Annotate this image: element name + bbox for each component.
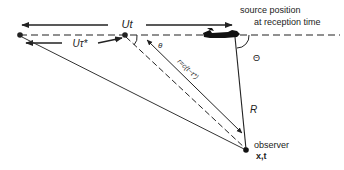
source-position-label-line2: at reception time: [254, 17, 321, 27]
observer-coords-label: x,t: [256, 151, 267, 161]
ut-label: Ut: [122, 18, 134, 30]
propagation-path-dashed: [126, 37, 246, 149]
source-position-label-line1: source position: [240, 5, 301, 15]
origin-to-observer-line: [22, 37, 246, 150]
r-equation-label: r=c(t−τ*): [176, 58, 200, 82]
emission-point: [122, 32, 128, 38]
theta-large-label: Θ: [253, 53, 260, 63]
theta-small-label: θ: [158, 41, 163, 50]
u-tau-star-label: Uτ*: [73, 38, 89, 49]
aircraft-icon: [203, 28, 240, 38]
r-distance-arrow: [147, 40, 242, 133]
u-tau-arrow-right: [98, 38, 122, 43]
moving-source-geometry-diagram: Ut Uτ* θ r=c(t−τ*) Θ R observer x,t sour…: [0, 0, 344, 170]
observer-label: observer: [254, 140, 289, 150]
R-label: R: [250, 104, 257, 115]
observer-point: [243, 147, 249, 153]
origin-point: [17, 32, 23, 38]
theta-large-arc: [237, 35, 249, 48]
theta-angle-arc: [134, 35, 137, 45]
